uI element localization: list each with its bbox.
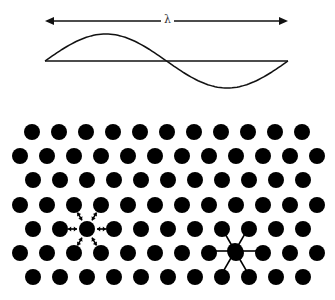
atom <box>187 172 203 188</box>
atom <box>78 124 94 140</box>
atom <box>105 124 121 140</box>
atom <box>25 221 41 237</box>
atom <box>187 221 203 237</box>
atom <box>93 148 109 164</box>
atom <box>79 269 95 285</box>
atom <box>295 172 311 188</box>
atom <box>66 245 82 261</box>
atom <box>52 221 68 237</box>
atom <box>52 269 68 285</box>
atom <box>186 124 202 140</box>
atom <box>160 269 176 285</box>
atom <box>132 124 148 140</box>
atom <box>133 172 149 188</box>
atom <box>309 197 325 213</box>
atom <box>133 221 149 237</box>
atom <box>79 172 95 188</box>
vibration-arrow-icon <box>68 227 71 232</box>
atom <box>309 148 325 164</box>
atom <box>39 245 55 261</box>
atom <box>174 245 190 261</box>
atom <box>268 172 284 188</box>
atom <box>66 197 82 213</box>
atom-lattice <box>12 124 325 285</box>
atom <box>201 148 217 164</box>
atom <box>39 197 55 213</box>
atom <box>295 221 311 237</box>
atom <box>106 269 122 285</box>
atom <box>160 172 176 188</box>
atom <box>174 148 190 164</box>
atom <box>12 197 28 213</box>
atom <box>66 148 82 164</box>
wave-lattice-diagram <box>0 0 335 300</box>
atom <box>12 245 28 261</box>
atom <box>93 245 109 261</box>
atom <box>106 172 122 188</box>
atom <box>282 148 298 164</box>
atom <box>51 124 67 140</box>
atom <box>159 124 175 140</box>
vibration-arrow-icon <box>103 227 106 232</box>
atom <box>255 197 271 213</box>
atom <box>282 245 298 261</box>
atom <box>12 148 28 164</box>
atom <box>255 245 271 261</box>
atom <box>25 269 41 285</box>
atom <box>241 172 257 188</box>
wavelength-label: λ <box>161 14 174 26</box>
arrow-left-icon <box>45 17 54 25</box>
atom <box>79 221 95 237</box>
atom <box>160 221 176 237</box>
atom <box>187 269 203 285</box>
atom <box>294 124 310 140</box>
atom <box>120 148 136 164</box>
atom <box>255 148 271 164</box>
atom <box>309 245 325 261</box>
atom <box>147 245 163 261</box>
atom <box>106 221 122 237</box>
atom <box>174 197 190 213</box>
atom <box>268 221 284 237</box>
vibration-arrow-icon <box>97 227 100 232</box>
atom <box>267 124 283 140</box>
atom <box>228 197 244 213</box>
atom <box>228 148 244 164</box>
atom <box>120 197 136 213</box>
atom <box>295 269 311 285</box>
atom <box>282 197 298 213</box>
atom <box>25 172 41 188</box>
atom <box>147 197 163 213</box>
atom <box>24 124 40 140</box>
atom <box>240 124 256 140</box>
atom <box>214 172 230 188</box>
atom <box>93 197 109 213</box>
atom <box>214 269 230 285</box>
atom <box>241 269 257 285</box>
sine-wave <box>45 17 288 88</box>
vibration-arrow-icon <box>74 227 77 232</box>
atom <box>147 148 163 164</box>
atom <box>201 245 217 261</box>
atom <box>268 269 284 285</box>
atom <box>213 124 229 140</box>
atom <box>133 269 149 285</box>
arrow-right-icon <box>279 17 288 25</box>
atom <box>39 148 55 164</box>
atom <box>52 172 68 188</box>
atom <box>201 197 217 213</box>
atom <box>241 221 257 237</box>
atom <box>120 245 136 261</box>
